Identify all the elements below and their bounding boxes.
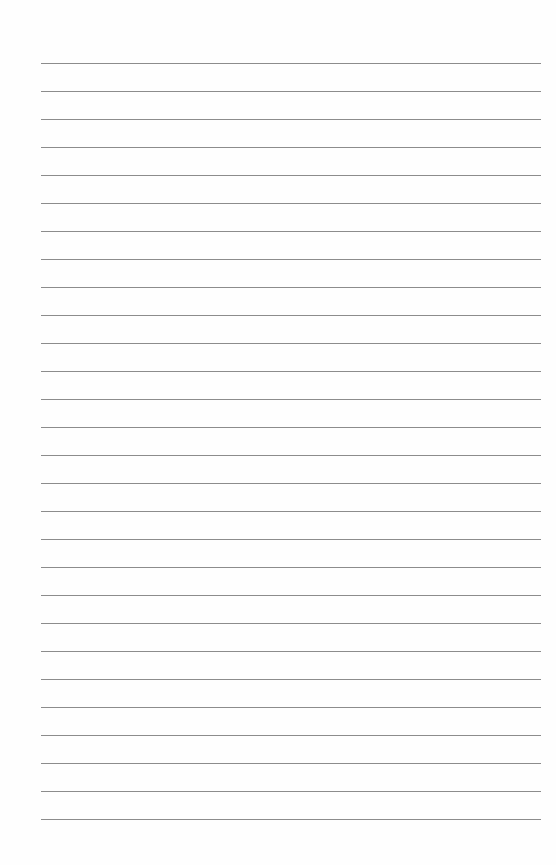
ruled-line bbox=[41, 567, 541, 568]
ruled-line bbox=[41, 539, 541, 540]
ruled-line bbox=[41, 651, 541, 652]
ruled-line bbox=[41, 259, 541, 260]
ruled-line bbox=[41, 91, 541, 92]
ruled-line bbox=[41, 819, 541, 820]
ruled-line bbox=[41, 595, 541, 596]
ruled-line bbox=[41, 511, 541, 512]
ruled-line bbox=[41, 315, 541, 316]
ruled-line bbox=[41, 175, 541, 176]
ruled-line bbox=[41, 399, 541, 400]
ruled-line bbox=[41, 371, 541, 372]
ruled-line bbox=[41, 343, 541, 344]
ruled-line bbox=[41, 147, 541, 148]
ruled-line bbox=[41, 287, 541, 288]
ruled-line bbox=[41, 231, 541, 232]
lined-paper-page bbox=[0, 0, 556, 865]
ruled-line bbox=[41, 623, 541, 624]
ruled-line bbox=[41, 763, 541, 764]
ruled-line bbox=[41, 679, 541, 680]
ruled-line bbox=[41, 203, 541, 204]
ruled-line bbox=[41, 791, 541, 792]
ruled-line bbox=[41, 63, 541, 64]
ruled-line bbox=[41, 735, 541, 736]
ruled-line bbox=[41, 455, 541, 456]
ruled-line bbox=[41, 119, 541, 120]
ruled-line bbox=[41, 427, 541, 428]
ruled-line bbox=[41, 483, 541, 484]
ruled-line bbox=[41, 707, 541, 708]
